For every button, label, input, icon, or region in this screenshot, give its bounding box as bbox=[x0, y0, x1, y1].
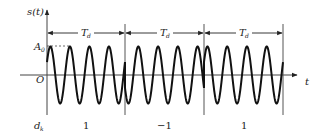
period-label-2: T d bbox=[160, 27, 170, 39]
symbol-value-2: −1 bbox=[157, 120, 172, 131]
y-axis-label: s(t) bbox=[27, 6, 44, 17]
svg-text:d: d bbox=[245, 32, 249, 39]
period-label-3: T d bbox=[239, 27, 249, 39]
svg-text:d: d bbox=[87, 32, 91, 39]
data-row-label: d k bbox=[34, 120, 44, 132]
waveform-plot: s(t) t O A 0 T d T d T d d k 1 −1 1 bbox=[0, 0, 331, 140]
svg-text:0: 0 bbox=[41, 46, 45, 53]
symbol-value-3: 1 bbox=[241, 120, 247, 131]
amplitude-label: A 0 bbox=[33, 41, 45, 53]
psk-waveform-diagram: s(t) t O A 0 T d T d T d d k 1 −1 1 bbox=[0, 0, 331, 140]
period-label-1: T d bbox=[81, 27, 91, 39]
symbol-value-1: 1 bbox=[83, 120, 89, 131]
svg-text:A: A bbox=[33, 41, 41, 52]
origin-label: O bbox=[36, 74, 44, 85]
svg-text:d: d bbox=[166, 32, 170, 39]
svg-text:k: k bbox=[40, 125, 44, 132]
x-axis-label: t bbox=[305, 76, 310, 87]
